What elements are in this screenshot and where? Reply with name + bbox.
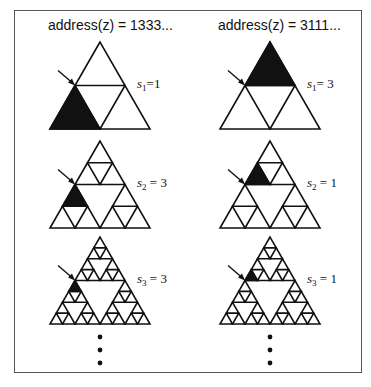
- highlighted-subtriangle: [63, 185, 88, 207]
- triangle-cell: [226, 302, 239, 313]
- triangle-cell: [283, 185, 308, 207]
- triangle-cell: [258, 313, 271, 324]
- triangle-cell: [113, 270, 126, 281]
- triangle-cell: [283, 313, 296, 324]
- triangle-cell: [301, 302, 314, 313]
- step-label: s2 = 1: [307, 175, 337, 192]
- triangle-cell: [113, 313, 126, 324]
- step-label: s3 = 1: [307, 271, 337, 288]
- highlighted-subtriangle: [50, 86, 100, 130]
- triangle-cell: [251, 259, 264, 270]
- triangle-cell: [75, 42, 125, 86]
- triangle-cell: [88, 270, 101, 281]
- triangle-cell: [81, 302, 94, 313]
- ellipsis-dot: [268, 348, 273, 353]
- triangle-cell: [125, 291, 138, 302]
- triangle-cell: [131, 302, 144, 313]
- ellipsis-dot: [98, 348, 103, 353]
- sierpinski-address-diagram: s1=1s2 = 3s3 = 3s1= 3s2 = 1s3 = 1: [0, 0, 371, 387]
- triangle-cell: [276, 259, 289, 270]
- triangle-cell: [308, 313, 321, 324]
- triangle-cell: [258, 141, 283, 163]
- triangle-cell: [100, 248, 113, 259]
- ellipsis-dot: [268, 361, 273, 366]
- triangle-cell: [245, 313, 258, 324]
- triangle-cell: [119, 281, 132, 292]
- triangle-cell: [50, 206, 75, 228]
- triangle-cell: [289, 281, 302, 292]
- step-label: s1= 3: [307, 76, 334, 93]
- triangle-cell: [258, 248, 271, 259]
- triangle-cell: [100, 206, 125, 228]
- triangle-cell: [245, 291, 258, 302]
- step-label: s3 = 3: [137, 271, 167, 288]
- triangle-cell: [106, 302, 119, 313]
- triangle-cell: [50, 313, 63, 324]
- triangle-cell: [63, 313, 76, 324]
- triangle-cell: [251, 302, 264, 313]
- triangle-cell: [63, 291, 76, 302]
- triangle-cell: [100, 313, 113, 324]
- triangle-cell: [283, 291, 296, 302]
- triangle-cell: [113, 185, 138, 207]
- triangle-cell: [88, 313, 101, 324]
- triangle-cell: [220, 206, 245, 228]
- triangle-cell: [220, 313, 233, 324]
- highlighted-subtriangle: [69, 281, 82, 292]
- highlighted-subtriangle: [245, 42, 295, 86]
- triangle-cell: [239, 281, 252, 292]
- triangle-cell: [270, 163, 295, 185]
- triangle-cell: [75, 291, 88, 302]
- step-label: s2 = 3: [137, 175, 167, 192]
- triangle-cell: [233, 185, 258, 207]
- triangle-cell: [100, 270, 113, 281]
- triangle-cell: [113, 291, 126, 302]
- ellipsis-dot: [98, 335, 103, 340]
- triangle-cell: [270, 270, 283, 281]
- highlighted-subtriangle: [245, 163, 270, 185]
- triangle-cell: [270, 248, 283, 259]
- triangle-cell: [233, 313, 246, 324]
- triangle-cell: [258, 270, 271, 281]
- triangle-cell: [276, 302, 289, 313]
- triangle-cell: [264, 237, 277, 248]
- triangle-cell: [125, 206, 150, 228]
- triangle-cell: [270, 313, 283, 324]
- triangle-cell: [295, 291, 308, 302]
- triangle-cell: [75, 163, 100, 185]
- triangle-cell: [295, 313, 308, 324]
- continuation-dots: [98, 335, 273, 366]
- triangle-cell: [270, 206, 295, 228]
- highlighted-subtriangle: [245, 270, 258, 281]
- step-label: s1=1: [137, 76, 160, 93]
- triangle-cell: [75, 206, 100, 228]
- triangle-cell: [81, 259, 94, 270]
- triangle-cell: [100, 163, 125, 185]
- triangle-cell: [106, 259, 119, 270]
- ellipsis-dot: [268, 335, 273, 340]
- sierpinski-triangles: [50, 42, 320, 324]
- triangle-cell: [88, 248, 101, 259]
- triangle-cell: [56, 302, 69, 313]
- triangle-cell: [125, 313, 138, 324]
- triangle-cell: [75, 270, 88, 281]
- triangle-cell: [75, 313, 88, 324]
- triangle-cell: [220, 86, 270, 130]
- triangle-cell: [88, 141, 113, 163]
- triangle-cell: [138, 313, 151, 324]
- triangle-cell: [283, 270, 296, 281]
- triangle-cell: [245, 206, 270, 228]
- ellipsis-dot: [98, 361, 103, 366]
- triangle-cell: [233, 291, 246, 302]
- triangle-cell: [295, 206, 320, 228]
- triangle-cell: [94, 237, 107, 248]
